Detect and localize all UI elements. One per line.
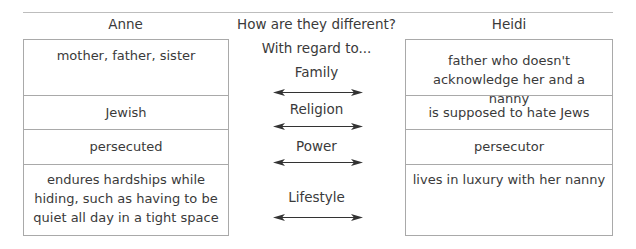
header-anne: Anne [23, 16, 228, 34]
double-headed-arrow-icon [273, 213, 363, 222]
heidi-lifestyle-cell: lives in luxury with her nanny [406, 170, 612, 234]
row-divider [406, 164, 612, 165]
header-rule [23, 12, 613, 13]
category-religion: Religion [228, 101, 405, 117]
heidi-power-cell: persecutor [406, 137, 612, 163]
row-divider [24, 164, 228, 165]
double-headed-arrow-icon [273, 88, 363, 97]
double-headed-arrow-icon [273, 122, 363, 131]
middle-intro: With regard to... [228, 40, 405, 56]
anne-religion-cell: Jewish [24, 103, 228, 129]
category-family: Family [228, 64, 405, 80]
row-divider [24, 95, 228, 96]
anne-family-cell: mother, father, sister [24, 46, 228, 96]
anne-lifestyle-cell: endures hardships while hiding, such as … [24, 170, 228, 234]
row-divider [406, 95, 612, 96]
heidi-religion-cell: is supposed to hate Jews [406, 103, 612, 129]
row-divider [24, 129, 228, 130]
heidi-family-cell: father who doesn't acknowledge her and a… [406, 51, 612, 91]
category-lifestyle: Lifestyle [228, 189, 405, 205]
header-heidi: Heidi [405, 16, 613, 34]
heidi-column: father who doesn't acknowledge her and a… [405, 39, 613, 236]
double-headed-arrow-icon [273, 158, 363, 167]
header-difference: How are they different? [228, 16, 405, 34]
anne-power-cell: persecuted [24, 137, 228, 163]
row-divider [406, 129, 612, 130]
category-power: Power [228, 138, 405, 154]
anne-column: mother, father, sister Jewish persecuted… [23, 39, 229, 236]
